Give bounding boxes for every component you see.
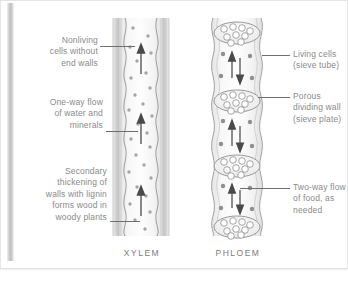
leader-line-living-cells — [262, 55, 290, 56]
label-one-way-flow: One-way flow of water and minerals — [18, 97, 103, 131]
label-porous-dividing-wall: Porous dividing wall (sieve plate) — [293, 91, 348, 125]
leader-line-nonliving-cells — [100, 46, 135, 47]
leader-line-secondary-thickening — [110, 221, 140, 222]
diagram-figure: Nonliving cells without end walls One-wa… — [0, 0, 348, 281]
xylem-illustration — [110, 16, 172, 238]
caption-phloem: PHLOEM — [201, 248, 275, 258]
frame-left-border — [0, 0, 1, 269]
label-secondary-thickening: Secondary thickening of walls with ligni… — [14, 166, 107, 223]
leader-line-two-way-flow — [240, 188, 290, 189]
caption-xylem: XYLEM — [108, 248, 176, 258]
leader-line-porous-wall — [258, 97, 290, 98]
phloem-illustration — [203, 16, 271, 238]
left-edge-gradient-bar — [7, 3, 14, 261]
label-two-way-flow: Two-way flow of food, as needed — [293, 182, 348, 216]
label-nonliving-cells: Nonliving cells without end walls — [18, 35, 98, 69]
leader-line-one-way-flow — [106, 131, 138, 132]
frame-drop-shadow — [0, 269, 348, 272]
label-living-cells: Living cells (sieve tube) — [293, 49, 347, 72]
frame-top-border — [0, 0, 348, 1]
